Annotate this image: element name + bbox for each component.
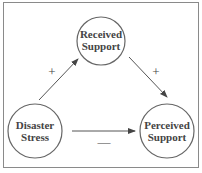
- edge-received-to-perceived: +: [129, 57, 167, 97]
- node-received-support: Received Support: [77, 17, 125, 65]
- node-label-line1: Disaster: [16, 119, 55, 131]
- node-perceived-support: Perceived Support: [140, 104, 194, 158]
- node-label-line1: Received: [80, 28, 122, 40]
- arrow-icon: [129, 57, 167, 97]
- edge-disaster-to-perceived: —: [72, 131, 135, 149]
- node-label-line2: Stress: [21, 131, 50, 143]
- edge-disaster-to-received: +: [39, 59, 78, 100]
- arrow-icon: [39, 59, 78, 100]
- node-label-line1: Perceived: [144, 119, 190, 131]
- edge-sign: —: [97, 134, 112, 149]
- node-label-line2: Support: [148, 131, 187, 143]
- edge-sign: +: [48, 64, 55, 79]
- node-disaster-stress: Disaster Stress: [8, 104, 62, 158]
- diagram-canvas: Received Support Disaster Stress Perceiv…: [0, 0, 202, 173]
- node-label-line2: Support: [82, 40, 121, 52]
- edge-sign: +: [152, 64, 159, 79]
